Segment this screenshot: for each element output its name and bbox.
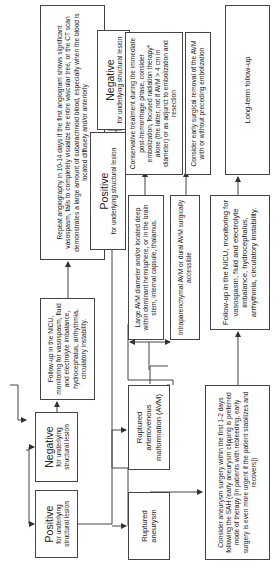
node-text: Ruptured aneurysm [140, 496, 159, 556]
flowchart-canvas: Positive for underlying structural lesio… [0, 0, 280, 580]
node-title: Negative [43, 426, 55, 467]
node-subtitle: for underlying structural lesion [55, 494, 71, 554]
node-title: Positive [43, 506, 55, 543]
node-text: Follow-up in the NICU, monitoring for va… [47, 302, 88, 396]
node-text: Repeat angiography in 10-14 days if the … [56, 12, 89, 253]
node-subtitle: for underlying structural lesion [116, 37, 124, 124]
node-aneurysm-surgery: Consider aneurysm surgery within the fir… [205, 385, 270, 560]
node-intraparenchymal-avm: Intraparenchymal AVM or dural AVM surgic… [170, 195, 200, 340]
node-text: Conservative treatment during the immedi… [129, 37, 178, 170]
node-large-avm: Large AVM diameter and/or located deep w… [128, 195, 164, 340]
node-text: Follow-up in the NICU, monitoring for va… [221, 199, 259, 326]
node-subtitle: for underlying structural lesion [110, 148, 118, 235]
node-text: Consider early surgical removal of the A… [190, 36, 206, 171]
node-text: Ruptured arteriovenous malformation (AVM… [135, 389, 163, 466]
node-text: Long-term follow-up [243, 56, 252, 123]
node-title: Negative [104, 59, 116, 100]
node-followup-nicu-small: Follow-up in the NICU, monitoring for va… [40, 298, 95, 400]
node-conservative-treatment: Conservative treatment during the immedi… [125, 32, 183, 175]
node-text: Consider aneurysm surgery within the fir… [217, 391, 258, 554]
node-negative-initial: Negative for underlying structural lesio… [35, 412, 78, 482]
node-ruptured-avm: Ruptured arteriovenous malformation (AVM… [128, 385, 170, 470]
node-early-surgical-removal: Consider early surgical removal of the A… [185, 32, 211, 175]
node-text: Large AVM diameter and/or located deep w… [134, 199, 159, 336]
node-text: Intraparenchymal AVM or dural AVM surgic… [177, 199, 193, 336]
node-subtitle: for underlying structural lesion [55, 416, 71, 478]
node-positive-repeat: Positive for underlying structural lesio… [90, 132, 126, 250]
node-title: Positive [98, 173, 110, 210]
node-long-term-followup: Long-term follow-up [225, 5, 270, 175]
node-ruptured-aneurysm: Ruptured aneurysm [128, 492, 170, 560]
node-followup-nicu-large: Follow-up in the NICU, monitoring for va… [210, 195, 270, 330]
node-positive-initial: Positive for underlying structural lesio… [35, 490, 78, 558]
